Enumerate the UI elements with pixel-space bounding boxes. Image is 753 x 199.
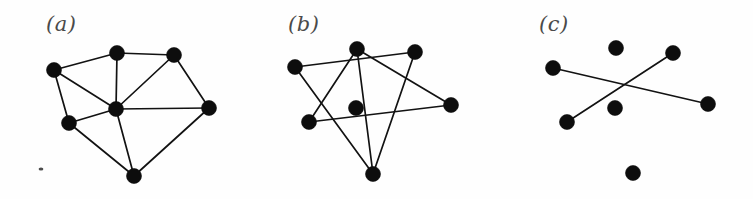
graph-node [609, 41, 624, 56]
graph-edge [357, 49, 451, 105]
graph-edge [54, 53, 117, 70]
panel-c-nodes [546, 41, 716, 181]
graph-edge [134, 108, 209, 176]
graph-node [350, 42, 365, 57]
graph-node [560, 115, 575, 130]
graph-figure: (a) (b) (c) [0, 0, 753, 199]
graph-node [110, 46, 125, 61]
graph-edge [117, 53, 174, 55]
panel-a: (a) [0, 0, 251, 199]
panel-a-specks [39, 167, 44, 170]
graph-node [302, 115, 317, 130]
scan-speck [39, 167, 44, 170]
panel-b-drawing [251, 0, 502, 199]
graph-node [288, 60, 303, 75]
graph-node [626, 166, 641, 181]
graph-node [608, 101, 623, 116]
panel-c: (c) [502, 0, 753, 199]
graph-edge [174, 55, 209, 108]
graph-edge [553, 68, 708, 104]
graph-node [349, 101, 364, 116]
graph-edge [116, 53, 117, 109]
graph-node [366, 167, 381, 182]
graph-node [666, 46, 681, 61]
graph-edge [309, 105, 451, 122]
graph-node [62, 116, 77, 131]
graph-node [127, 169, 142, 184]
graph-node [167, 48, 182, 63]
panel-c-drawing [502, 0, 753, 199]
graph-node [47, 63, 62, 78]
graph-node [408, 45, 423, 60]
graph-node [444, 98, 459, 113]
graph-edge [116, 55, 174, 109]
graph-node [202, 101, 217, 116]
graph-node [701, 97, 716, 112]
panel-b-nodes [288, 42, 459, 182]
graph-node [546, 61, 561, 76]
graph-edge [69, 123, 134, 176]
panel-a-edges [54, 53, 209, 176]
panel-a-drawing [0, 0, 251, 199]
panel-a-nodes [47, 46, 217, 184]
panel-b: (b) [251, 0, 502, 199]
panel-c-edges [553, 53, 708, 122]
panel-b-edges [295, 49, 451, 174]
graph-edge [116, 108, 209, 109]
graph-node [109, 102, 124, 117]
graph-edge [116, 109, 134, 176]
